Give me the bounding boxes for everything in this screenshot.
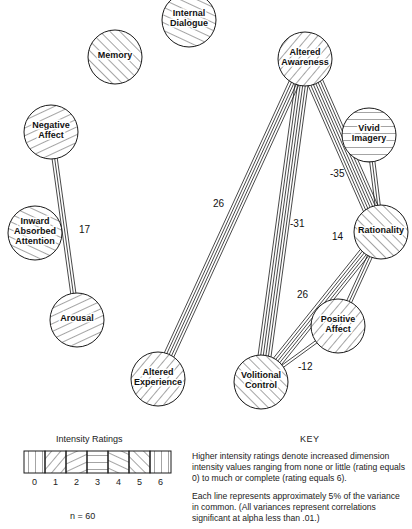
- node-label: Experience: [134, 377, 182, 387]
- correlation-labels: 1726-31-352614-12: [79, 168, 345, 372]
- node-inward_absorbed_attention: InwardAbsorbedAttention: [8, 206, 62, 260]
- node-label: Attention: [15, 236, 55, 246]
- node-label: Awareness: [281, 57, 328, 67]
- legend-tick: 2: [74, 477, 79, 487]
- node-label: Inward: [20, 216, 49, 226]
- correlation-value: 26: [297, 289, 309, 300]
- node-label: Memory: [98, 50, 133, 60]
- node-altered_awareness: AlteredAwareness: [278, 32, 332, 86]
- node-label: Volitional: [241, 370, 281, 380]
- correlation-diagram: InternalDialogueMemoryAlteredAwarenessNe…: [0, 0, 412, 529]
- node-label: Altered: [142, 367, 173, 377]
- correlation-value: 26: [213, 198, 225, 209]
- legend-cell-0: 0: [24, 451, 45, 487]
- node-memory: Memory: [88, 30, 142, 84]
- legend-cell-2: 2: [66, 451, 87, 487]
- node-internal_dialogue: InternalDialogue: [162, 0, 216, 47]
- correlation-value: 14: [332, 231, 344, 242]
- legend-tick: 3: [95, 477, 100, 487]
- legend-cell-6: 6: [150, 451, 171, 487]
- legend-cell-4: 4: [108, 451, 129, 487]
- node-rationality: Rationality: [354, 205, 408, 259]
- sample-size-label: n = 60: [70, 511, 95, 521]
- correlation-value: -35: [330, 168, 345, 179]
- node-label: Rationality: [358, 225, 404, 235]
- legend-cell-1: 1: [45, 451, 66, 487]
- node-positive_affect: PositiveAffect: [311, 299, 365, 353]
- node-label: Imagery: [352, 133, 387, 143]
- node-label: Dialogue: [170, 18, 208, 28]
- dimension-nodes: InternalDialogueMemoryAlteredAwarenessNe…: [8, 0, 408, 409]
- node-negative_affect: NegativeAffect: [24, 105, 78, 159]
- correlation-value: -31: [290, 218, 305, 229]
- key-title: KEY: [300, 434, 320, 444]
- node-label: Internal: [173, 8, 206, 18]
- node-label: Arousal: [60, 313, 94, 323]
- node-vivid_imagery: VividImagery: [342, 108, 396, 162]
- correlation-value: 17: [79, 224, 91, 235]
- legend-tick: 5: [137, 477, 142, 487]
- node-label: Positive: [321, 314, 356, 324]
- legend-tick: 6: [158, 477, 163, 487]
- key-paragraph-intensity: Higher intensity ratings denote increase…: [192, 451, 407, 484]
- node-label: Control: [245, 380, 277, 390]
- node-arousal: Arousal: [50, 293, 104, 347]
- correlation-value: -12: [298, 361, 313, 372]
- node-altered_experience: AlteredExperience: [131, 352, 185, 406]
- node-label: Affect: [38, 130, 64, 140]
- node-volitional_control: VolitionalControl: [234, 355, 288, 409]
- legend-cell-3: 3: [87, 451, 108, 487]
- legend-tick: 4: [116, 477, 121, 487]
- node-label: Negative: [32, 120, 70, 130]
- node-label: Absorbed: [14, 226, 56, 236]
- key-paragraph-variance: Each line represents approximately 5% of…: [192, 491, 407, 524]
- intensity-legend-bar: 0123456: [24, 451, 171, 487]
- node-label: Altered: [289, 47, 320, 57]
- legend-tick: 1: [53, 477, 58, 487]
- legend-tick: 0: [32, 477, 37, 487]
- node-label: Vivid: [358, 123, 379, 133]
- legend-title: Intensity Ratings: [56, 434, 123, 444]
- edge-vivid_imagery-rationality: [369, 159, 380, 207]
- legend-cell-5: 5: [129, 451, 150, 487]
- node-label: Affect: [325, 324, 351, 334]
